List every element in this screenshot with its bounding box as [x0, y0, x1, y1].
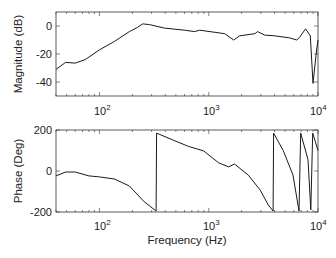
magnitude-line	[56, 24, 318, 84]
mag-ytick-minus20: -20	[36, 48, 52, 60]
svg-text:104: 104	[310, 103, 327, 117]
svg-text:103: 103	[203, 103, 220, 117]
magnitude-ylabel: Magnitude (dB)	[12, 15, 24, 94]
phase-ytick-minus200: -200	[30, 206, 52, 218]
mag-ytick-0: 0	[46, 20, 52, 32]
phase-xtick-labels: 102 103 104	[94, 218, 327, 232]
mag-xtick-labels: 102 103 104	[94, 103, 327, 117]
svg-text:103: 103	[203, 218, 220, 232]
phase-panel: 200 0 -200 102 103 104 Phase (Deg) Frequ…	[12, 124, 327, 246]
mag-ytick-minus40: -40	[36, 76, 52, 88]
svg-text:102: 102	[94, 103, 111, 117]
magnitude-x-ticks	[56, 12, 318, 96]
phase-ylabel: Phase (Deg)	[12, 139, 24, 204]
phase-ytick-200: 200	[34, 124, 52, 136]
phase-ytick-0: 0	[46, 165, 52, 177]
svg-text:102: 102	[94, 218, 111, 232]
phase-line	[56, 133, 318, 211]
bode-plot: 0 -20 -40 102 103 104 Magnitude (dB) 200…	[0, 0, 336, 258]
magnitude-panel: 0 -20 -40 102 103 104 Magnitude (dB)	[12, 12, 327, 117]
magnitude-plot-frame	[56, 12, 318, 96]
svg-text:104: 104	[310, 218, 327, 232]
frequency-xlabel: Frequency (Hz)	[147, 234, 226, 246]
